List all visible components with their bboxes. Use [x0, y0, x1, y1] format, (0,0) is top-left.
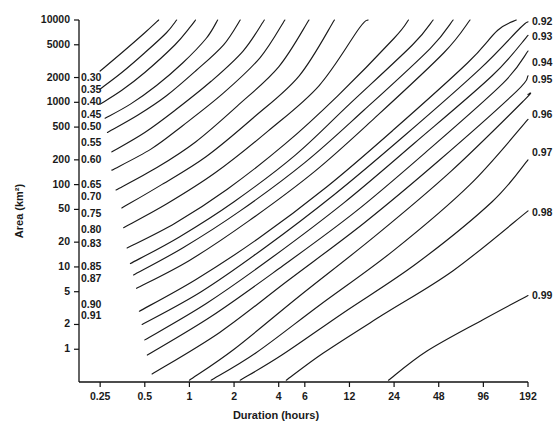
contour-label: 0.99 — [532, 289, 552, 301]
y-tick-label: 5000 — [0, 38, 70, 50]
contour-label: 0.96 — [532, 108, 552, 120]
y-tick-label: 2 — [0, 317, 70, 329]
contour-label: 0.95 — [532, 73, 552, 85]
y-tick-label: 10 — [0, 260, 70, 272]
contour-label: 0.65 — [81, 178, 101, 190]
contour-label: 0.92 — [532, 15, 552, 27]
y-tick-label: 20 — [0, 235, 70, 247]
contour-label: 0.30 — [81, 71, 101, 83]
contour-label: 0.97 — [532, 146, 552, 158]
contour-label: 0.91 — [81, 309, 101, 321]
y-tick-label: 2000 — [0, 71, 70, 83]
contour-label: 0.75 — [81, 207, 101, 219]
y-tick-label: 100 — [0, 178, 70, 190]
y-tick-label: 200 — [0, 153, 70, 165]
x-axis-label: Duration (hours) — [0, 409, 552, 421]
y-tick-label: 1 — [0, 342, 70, 354]
contour-label: 0.93 — [532, 30, 552, 42]
contour-label: 0.45 — [81, 108, 101, 120]
y-tick-label: 10000 — [0, 13, 70, 25]
y-tick-label: 5 — [0, 285, 70, 297]
contour-label: 0.87 — [81, 272, 101, 284]
contour-label: 0.83 — [81, 237, 101, 249]
contour-label: 0.50 — [81, 120, 101, 132]
y-tick-label: 1000 — [0, 95, 70, 107]
x-tick-label: 192 — [498, 390, 557, 402]
y-tick-label: 500 — [0, 120, 70, 132]
contour-label: 0.98 — [532, 206, 552, 218]
contour-label: 0.85 — [81, 260, 101, 272]
contour-label: 0.94 — [532, 56, 552, 68]
contour-label: 0.60 — [81, 153, 101, 165]
y-tick-label: 50 — [0, 202, 70, 214]
contour-label: 0.40 — [81, 95, 101, 107]
contour-label: 0.55 — [81, 136, 101, 148]
contour-label: 0.35 — [81, 83, 101, 95]
contour-label: 0.80 — [81, 223, 101, 235]
contour-label: 0.70 — [81, 190, 101, 202]
